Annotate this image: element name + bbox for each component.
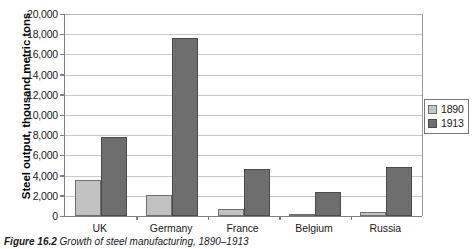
bar-group-belgium [279, 14, 350, 216]
y-axis-tick-mark [60, 195, 65, 197]
y-axis-tick-label: 18,000 [27, 28, 58, 40]
y-axis-tick-label: 8,000 [33, 129, 58, 141]
x-axis-label-france: France [207, 222, 278, 234]
y-axis-tick-label: 2,000 [33, 190, 58, 202]
x-axis-category-labels: UKGermanyFranceBelgiumRussia [64, 222, 421, 234]
legend-item-1913: 1913 [428, 116, 464, 130]
bar-belgium-1890 [289, 214, 315, 216]
y-axis-tick-label: 14,000 [27, 69, 58, 81]
y-axis-tick-mark [60, 14, 65, 16]
y-axis-tick-mark [60, 54, 65, 56]
figure-container: Steel output, thousand metric tons 02,00… [0, 0, 474, 249]
y-axis-tick-label: 0 [52, 210, 58, 222]
legend-swatch-icon-1913 [428, 119, 437, 128]
caption-body: Growth of steel manufacturing, 1890–1913 [60, 236, 249, 247]
bar-germany-1913 [172, 38, 198, 216]
y-axis-tick-label: 12,000 [27, 89, 58, 101]
bar-uk-1913 [101, 137, 127, 216]
x-axis-label-germany: Germany [135, 222, 206, 234]
y-axis-tick-mark [60, 155, 65, 157]
y-axis-tick-mark [60, 115, 65, 117]
caption-number: Figure 16.2 [4, 236, 57, 247]
y-axis-tick-label: 16,000 [27, 48, 58, 60]
y-axis-tick-label: 20,000 [27, 8, 58, 20]
x-axis-label-belgium: Belgium [278, 222, 349, 234]
y-axis-tick-label: 4,000 [33, 170, 58, 182]
bar-russia-1890 [360, 212, 386, 216]
bar-russia-1913 [386, 167, 412, 216]
bar-groups [65, 14, 422, 216]
legend-label-1890: 1890 [441, 103, 464, 115]
y-axis-tick-label: 10,000 [27, 109, 58, 121]
bar-group-uk [65, 14, 136, 216]
bar-group-france [208, 14, 279, 216]
bar-france-1913 [244, 169, 270, 216]
y-axis-tick-mark [60, 175, 65, 177]
legend-item-1890: 1890 [428, 102, 464, 116]
bar-group-germany [136, 14, 207, 216]
y-axis-tick-mark [60, 94, 65, 96]
bar-france-1890 [218, 209, 244, 216]
bar-germany-1890 [146, 195, 172, 216]
plot-right-border [422, 14, 423, 216]
y-axis-tick-label: 6,000 [33, 149, 58, 161]
x-axis-label-uk: UK [64, 222, 135, 234]
bar-belgium-1913 [315, 192, 341, 216]
y-axis-tick-mark [60, 135, 65, 137]
y-axis-tick-labels: 02,0004,0006,0008,00010,00012,00014,0001… [18, 9, 60, 221]
chart-legend: 1890 1913 [424, 99, 469, 134]
plot-area [64, 14, 422, 217]
legend-label-1913: 1913 [441, 117, 464, 129]
x-axis-label-russia: Russia [350, 222, 421, 234]
bar-uk-1890 [75, 180, 101, 216]
y-axis-tick-mark [60, 74, 65, 76]
legend-swatch-icon-1890 [428, 105, 437, 114]
bar-group-russia [351, 14, 422, 216]
y-axis-tick-mark [60, 216, 65, 218]
y-axis-tick-mark [60, 34, 65, 36]
figure-caption: Figure 16.2 Growth of steel manufacturin… [4, 236, 470, 247]
